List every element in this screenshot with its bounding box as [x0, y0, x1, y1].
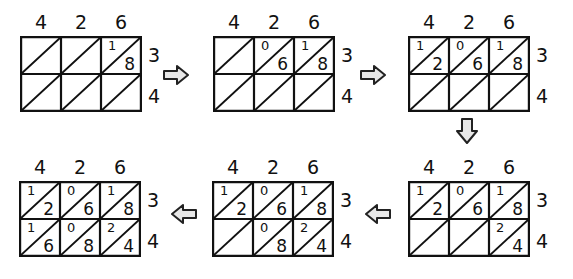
lattice-cell: 12 [409, 182, 449, 220]
arrow-left-icon [171, 203, 197, 225]
lattice-cell: 18 [294, 37, 334, 75]
multiplier-digit: 4 [340, 231, 362, 251]
ones-digit: 8 [316, 200, 327, 218]
lattice-cell [21, 37, 61, 75]
tens-digit: 2 [107, 221, 115, 235]
tens-digit: 1 [416, 184, 424, 198]
multiplier-digit: 4 [536, 231, 558, 251]
lattice-cell: 06 [253, 182, 293, 220]
multiplier-digit: 3 [340, 190, 362, 210]
lattice-cell: 24 [489, 219, 529, 257]
multiplier-digit: 4 [341, 86, 363, 106]
tens-digit: 1 [496, 39, 504, 53]
lattice-grid: 12061824 [408, 181, 530, 257]
multiplicand-digit: 2 [254, 12, 294, 32]
ones-digit: 6 [472, 200, 483, 218]
tens-digit: 2 [496, 221, 504, 235]
tens-digit: 2 [300, 221, 308, 235]
lattice-cell [213, 219, 253, 257]
arrow-left-icon [365, 203, 391, 225]
multiplier-digit: 3 [341, 45, 363, 65]
multiplier-digit: 4 [148, 86, 170, 106]
tens-digit: 0 [260, 184, 268, 198]
multiplicand-digit: 6 [101, 12, 141, 32]
multiplicand-digit: 4 [409, 157, 449, 177]
lattice-cell: 08 [60, 219, 100, 257]
ones-digit: 8 [512, 200, 523, 218]
multiplicand-digit: 6 [489, 12, 529, 32]
lattice-cell [294, 74, 334, 112]
tens-digit: 1 [496, 184, 504, 198]
ones-digit: 8 [83, 237, 94, 255]
multiplicand-digit: 4 [214, 12, 254, 32]
multiplicand-digit: 6 [489, 157, 529, 177]
arrow-right-icon [163, 64, 189, 86]
lattice-cell: 12 [213, 182, 253, 220]
ones-digit: 8 [317, 55, 328, 73]
lattice-cell: 18 [100, 182, 140, 220]
lattice-cell: 12 [409, 37, 449, 75]
multiplicand-digit: 4 [21, 12, 61, 32]
multiplier-digit: 4 [147, 231, 169, 251]
ones-digit: 2 [432, 200, 443, 218]
lattice-cell: 18 [101, 37, 141, 75]
tens-digit: 1 [300, 184, 308, 198]
tens-digit: 0 [67, 221, 75, 235]
multiplicand-digit: 4 [213, 157, 253, 177]
lattice-cell: 16 [20, 219, 60, 257]
multiplicand-digit: 2 [61, 12, 101, 32]
lattice-grid: 0618 [213, 36, 335, 112]
ones-digit: 8 [512, 55, 523, 73]
tens-digit: 0 [261, 39, 269, 53]
lattice-cell [21, 74, 61, 112]
lattice-panel-step-5: 426120618082434 [212, 157, 362, 257]
lattice-cell: 24 [100, 219, 140, 257]
lattice-panel-step-2: 426061834 [213, 12, 363, 112]
lattice-grid: 120618 [408, 36, 530, 112]
lattice-cell [409, 74, 449, 112]
lattice-cell: 06 [60, 182, 100, 220]
ones-digit: 6 [277, 55, 288, 73]
lattice-cell [489, 74, 529, 112]
tens-digit: 1 [108, 39, 116, 53]
ones-digit: 4 [123, 237, 134, 255]
multiplicand-digit: 6 [294, 12, 334, 32]
tens-digit: 1 [301, 39, 309, 53]
lattice-cell: 06 [254, 37, 294, 75]
multiplier-digit: 3 [147, 190, 169, 210]
lattice-panel-step-3: 42612061834 [408, 12, 558, 112]
tens-digit: 1 [27, 184, 35, 198]
lattice-cell: 08 [253, 219, 293, 257]
ones-digit: 2 [43, 200, 54, 218]
lattice-cell [101, 74, 141, 112]
multiplicand-digit: 2 [60, 157, 100, 177]
ones-digit: 8 [124, 55, 135, 73]
lattice-grid: 120618160824 [19, 181, 141, 257]
lattice-cell: 18 [293, 182, 333, 220]
lattice-cell [214, 37, 254, 75]
lattice-cell [254, 74, 294, 112]
tens-digit: 1 [107, 184, 115, 198]
multiplicand-digit: 2 [449, 157, 489, 177]
multiplier-digit: 3 [148, 45, 170, 65]
lattice-cell: 12 [20, 182, 60, 220]
lattice-cell [214, 74, 254, 112]
multiplicand-digit: 2 [253, 157, 293, 177]
ones-digit: 2 [432, 55, 443, 73]
ones-digit: 4 [316, 237, 327, 255]
ones-digit: 6 [276, 200, 287, 218]
tens-digit: 1 [416, 39, 424, 53]
tens-digit: 1 [220, 184, 228, 198]
multiplicand-digit: 2 [449, 12, 489, 32]
ones-digit: 6 [83, 200, 94, 218]
lattice-cell [409, 219, 449, 257]
lattice-grid: 18 [20, 36, 142, 112]
arrow-right-icon [360, 64, 386, 86]
lattice-cell: 18 [489, 182, 529, 220]
multiplicand-digit: 6 [293, 157, 333, 177]
multiplicand-digit: 6 [100, 157, 140, 177]
ones-digit: 2 [236, 200, 247, 218]
tens-digit: 0 [260, 221, 268, 235]
tens-digit: 0 [456, 39, 464, 53]
multiplier-digit: 3 [536, 190, 558, 210]
